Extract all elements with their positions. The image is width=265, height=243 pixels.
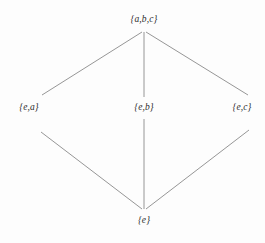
lattice-edges-layer <box>0 0 265 243</box>
edge-top-to-left <box>42 32 142 95</box>
lattice-node-top: {a,b,c} <box>131 15 158 25</box>
edge-top-to-right <box>146 32 248 95</box>
lattice-node-middle: {e,b} <box>134 103 153 113</box>
edge-left-to-bottom <box>41 132 142 209</box>
lattice-node-left: {e,a} <box>19 103 38 113</box>
hasse-diagram: {a,b,c} {e,a} {e,b} {e,c} {e} <box>0 0 265 243</box>
edge-right-to-bottom <box>146 130 249 209</box>
lattice-node-right: {e,c} <box>233 103 252 113</box>
lattice-node-bottom: {e} <box>138 216 150 226</box>
